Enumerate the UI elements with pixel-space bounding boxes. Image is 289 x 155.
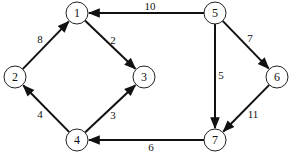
edge-5-to-6 [223, 21, 269, 68]
nodes-layer: 1234567 [4, 2, 288, 151]
edge-weight-label: 7 [247, 32, 253, 44]
edge-weight-label: 8 [37, 33, 43, 45]
edge-6-to-7 [223, 85, 269, 132]
node-label: 2 [12, 70, 18, 84]
edge-weight-label: 11 [248, 108, 259, 120]
edge-weight-label: 3 [110, 109, 116, 121]
node-label: 4 [74, 133, 80, 147]
node-label: 1 [74, 6, 80, 20]
node-4: 4 [66, 129, 88, 151]
edge-weight-label: 4 [37, 108, 43, 120]
edge-2-to-1 [23, 22, 69, 69]
node-label: 3 [141, 70, 147, 84]
node-2: 2 [4, 66, 26, 88]
node-label: 7 [212, 133, 218, 147]
node-1: 1 [66, 2, 88, 24]
node-6: 6 [266, 66, 288, 88]
edge-weight-label: 10 [145, 0, 157, 12]
node-label: 5 [212, 6, 218, 20]
edge-weight-label: 6 [148, 141, 154, 153]
node-label: 6 [274, 70, 280, 84]
graph-diagram: 82431057116 1234567 [0, 0, 289, 155]
node-3: 3 [133, 66, 155, 88]
edge-weight-label: 2 [110, 34, 116, 46]
node-5: 5 [204, 2, 226, 24]
edge-weight-label: 5 [218, 69, 224, 81]
edge-4-to-2 [23, 86, 69, 133]
node-7: 7 [204, 129, 226, 151]
